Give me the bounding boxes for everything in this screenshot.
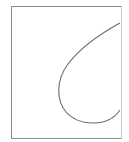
diagram-svg — [0, 0, 129, 142]
parabolic-curve — [59, 23, 120, 123]
frame-rectangle — [12, 7, 122, 139]
diagram-canvas — [0, 0, 129, 142]
